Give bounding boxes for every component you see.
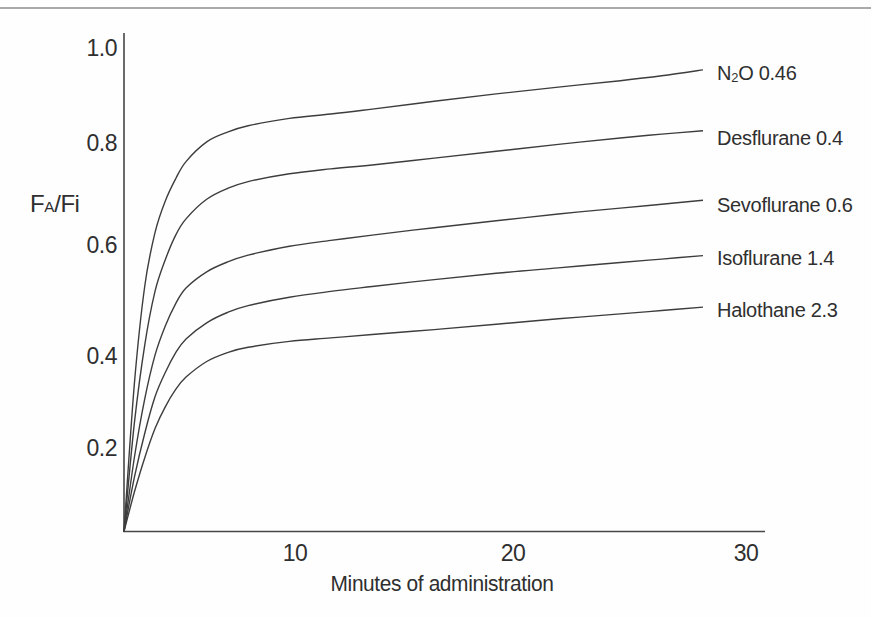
label-text: N (717, 62, 731, 84)
x-axis-label: Minutes of administration (331, 571, 554, 597)
y-tick-label-0.6: 0.6 (52, 232, 117, 259)
label-smallsubscript: A (44, 198, 54, 215)
label-text: i (75, 190, 80, 217)
curve-n2o-0.46 (124, 70, 703, 532)
x-tick-label-30: 30 (734, 540, 759, 567)
curve-isoflurane-1.4 (124, 256, 703, 532)
x-tick-label-10: 10 (283, 540, 308, 567)
y-tick-label-1.0: 1.0 (52, 35, 117, 62)
curve-label-n2o-0.46: N2O 0.46 (717, 62, 797, 85)
curve-label-desflurane-0.4: Desflurane 0.4 (717, 127, 843, 150)
label-text: F (30, 190, 44, 217)
curve-halothane-2.3 (124, 307, 703, 531)
label-subscript: 2 (731, 70, 738, 85)
y-tick-label-0.8: 0.8 (52, 130, 117, 157)
label-text: Halothane 2.3 (717, 299, 838, 321)
curve-label-sevoflurane-0.6: Sevoflurane 0.6 (717, 194, 853, 217)
label-text: O 0.46 (738, 62, 796, 84)
label-text: Isoflurane 1.4 (717, 247, 834, 269)
curve-label-isoflurane-1.4: Isoflurane 1.4 (717, 247, 834, 270)
label-text: Desflurane 0.4 (717, 127, 843, 149)
label-text: Sevoflurane 0.6 (717, 194, 853, 216)
curve-label-halothane-2.3: Halothane 2.3 (717, 299, 838, 322)
axes-lines (124, 33, 765, 532)
x-tick-label-20: 20 (501, 540, 526, 567)
y-tick-label-0.4: 0.4 (52, 343, 117, 370)
anesthetic-uptake-figure: FA/Fi Minutes of administration 1.00.80.… (0, 0, 871, 618)
curve-sevoflurane-0.6 (124, 200, 703, 531)
y-tick-label-0.2: 0.2 (52, 435, 117, 462)
y-axis-label: FA/Fi (30, 190, 79, 218)
label-text: /F (54, 190, 74, 217)
